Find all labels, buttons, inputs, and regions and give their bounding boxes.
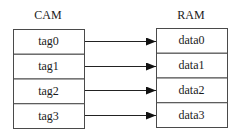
ram-title: RAM (177, 8, 205, 22)
ram-cell-label: data1 (179, 58, 205, 72)
ram-cell-label: data0 (179, 33, 205, 47)
cam-cell-label: tag0 (38, 34, 59, 48)
ram-cell: data1 (157, 53, 228, 78)
arrows (85, 42, 156, 116)
cam-ram-diagram: CAM RAM tag0tag1tag2tag3 data0data1data2… (0, 0, 238, 136)
cam-cell-label: tag2 (38, 84, 59, 98)
cam-cell: tag3 (14, 104, 85, 129)
cam-cell: tag0 (14, 30, 85, 55)
ram-table: data0data1data2data3 (157, 29, 228, 128)
ram-cell: data0 (157, 29, 228, 54)
ram-cell: data3 (157, 103, 228, 128)
ram-cell: data2 (157, 78, 228, 103)
ram-cell-label: data3 (179, 108, 205, 122)
cam-cell: tag2 (14, 79, 85, 104)
cam-cell: tag1 (14, 54, 85, 79)
cam-cell-label: tag1 (38, 59, 59, 73)
ram-cell-label: data2 (179, 83, 205, 97)
cam-cell-label: tag3 (38, 109, 59, 123)
cam-title: CAM (34, 8, 62, 22)
cam-table: tag0tag1tag2tag3 (14, 30, 85, 129)
